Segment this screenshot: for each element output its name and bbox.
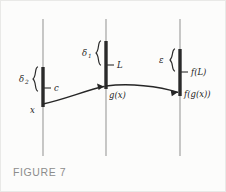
point-label-x: x (30, 105, 35, 115)
figure-container: δ 2 δ 1 ε c L f(L) x g(x) f(g(x)) (0, 0, 226, 192)
figure-caption: FIGURE 7 (13, 166, 66, 178)
brace-label-delta1: δ (82, 48, 87, 58)
brace-labels-group: δ 2 δ 1 ε (19, 48, 164, 85)
arrowhead-gx (97, 84, 104, 90)
tick-label-fL: f(L) (190, 67, 206, 77)
brace-label-delta1-sub: 1 (88, 53, 92, 59)
point-label-fgx: f(g(x)) (183, 89, 211, 99)
brace-label-delta2: δ (19, 74, 24, 84)
brace-delta1 (96, 41, 101, 65)
brace-label-delta2-sub: 2 (24, 79, 29, 85)
curve-segment-x-to-gx (43, 87, 104, 104)
brace-delta2 (33, 67, 38, 91)
brace-label-epsilon: ε (159, 55, 164, 65)
tick-label-c: c (54, 83, 59, 93)
point-label-gx: g(x) (109, 90, 126, 100)
tick-label-L: L (116, 60, 123, 70)
figure-diagram: δ 2 δ 1 ε c L f(L) x g(x) f(g(x)) (1, 1, 226, 192)
tick-labels-group: c L f(L) (43, 60, 206, 93)
brace-epsilon (170, 49, 175, 71)
